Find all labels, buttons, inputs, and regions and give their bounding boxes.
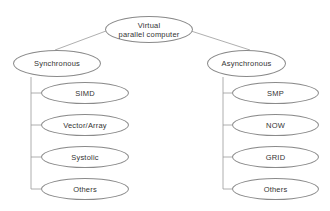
leaf-label: GRID [266,153,286,162]
leaf-label: Others [73,185,97,194]
branch-label: Asynchronous [222,59,272,68]
leaf-node-smp: SMP [232,82,319,104]
leaf-label: Others [264,185,288,194]
root-node-virtual-parallel-computer: Virtual parallel computer [105,16,193,43]
branch-node-asynchronous: Asynchronous [207,50,286,77]
leaf-node-now: NOW [232,114,319,136]
leaf-node-simd: SIMD [41,82,129,104]
leaf-label: Vector/Array [63,121,107,130]
leaf-node-systolic: Systolic [41,146,129,168]
leaf-node-others-async: Others [232,178,319,200]
leaf-label: SMP [267,89,284,98]
branch-node-synchronous: Synchronous [13,50,101,77]
leaf-label: SIMD [75,89,95,98]
leaf-node-grid: GRID [232,146,319,168]
leaf-node-vector-array: Vector/Array [41,114,129,136]
root-label-line2: parallel computer [119,30,180,39]
leaf-node-others-sync: Others [41,178,129,200]
branch-label: Synchronous [34,59,80,68]
leaf-label: Systolic [71,153,98,162]
leaf-label: NOW [266,121,285,130]
root-label-line1: Virtual [138,21,161,30]
